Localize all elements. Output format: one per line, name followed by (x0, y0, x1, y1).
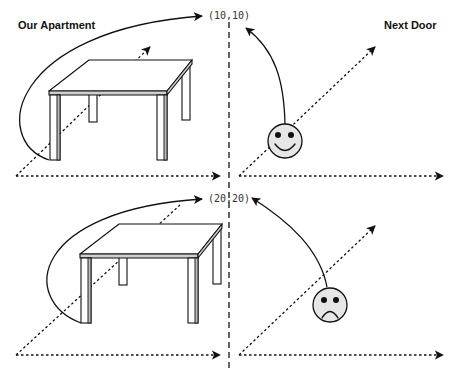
face-circle (268, 124, 302, 158)
face-eye-left (321, 297, 327, 303)
table-leg-shadow (88, 258, 91, 323)
table-front-edge (80, 254, 198, 258)
face-eye-right (333, 297, 339, 303)
diagram-canvas: Our Apartment Next Door (10,10) (0, 0, 459, 371)
table-leg-back-left (89, 94, 97, 122)
table-leg-back-left (119, 257, 127, 285)
table-leg-shadow (57, 95, 60, 160)
table-front-edge (49, 91, 167, 95)
table-leg-shadow (195, 258, 198, 323)
face-circle (313, 288, 347, 322)
table-leg-shadow (164, 95, 167, 160)
depth-axis-right-top (239, 47, 375, 176)
table-icon (49, 60, 192, 160)
panel-title-next-door: Next Door (384, 19, 437, 31)
panel-title-our-apartment: Our Apartment (18, 19, 96, 31)
smiley-face-icon (268, 124, 302, 158)
table-top (80, 224, 222, 254)
table-icon (80, 224, 222, 323)
coordinate-label-bottom: (20,20) (208, 193, 250, 204)
frowning-face-icon (313, 288, 347, 322)
curve-arrow-face-to-coordinate-top (246, 28, 285, 124)
face-eye-left (275, 132, 281, 138)
coordinate-label-top: (10,10) (208, 10, 250, 21)
face-eye-right (288, 132, 294, 138)
curve-arrow-face-to-coordinate-bottom (252, 198, 327, 287)
